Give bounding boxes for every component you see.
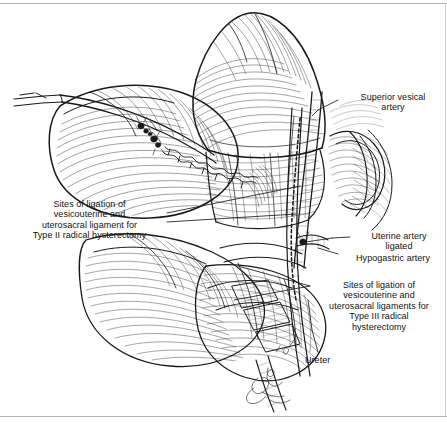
cervix-parametrium: [204, 150, 324, 229]
surgical-illustration-figure: Superior vesical artery Sites of ligatio…: [0, 0, 447, 423]
uterus-fundus: [182, 13, 325, 158]
dashed-ligation-marking: [291, 118, 300, 300]
label-uterine-artery-ligated: Uterine artery ligated: [352, 231, 446, 252]
label-type-iii-ligation-sites: Sites of ligation of vesicouterine and u…: [312, 280, 446, 332]
pelvic-sidewall-vessels: [329, 130, 392, 230]
label-hypogastric-artery: Hypogastric artery: [340, 253, 446, 263]
label-type-ii-ligation-sites: Sites of ligation of vesicouterine and u…: [12, 199, 167, 241]
uterine-artery-ligated-stump: [296, 231, 329, 249]
cervix-shadow-notch: [243, 165, 277, 207]
surgical-retractor-instrument: [14, 93, 216, 163]
label-superior-vesical-artery: Superior vesical artery: [341, 92, 445, 113]
artist-signature: [246, 340, 294, 404]
leader-uterine-artery: [332, 237, 350, 238]
lower-vessel-extensions: [256, 356, 286, 412]
label-ureter: Ureter: [305, 355, 347, 365]
